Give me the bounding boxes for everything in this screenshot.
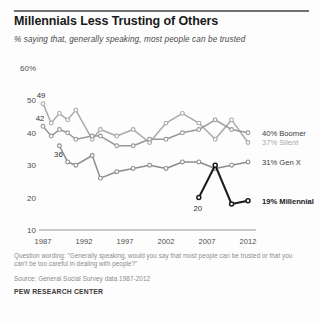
series-millennial [197, 163, 250, 206]
page-title: Millennials Less Trusting of Others [14, 14, 314, 29]
series-marker [74, 137, 78, 141]
series-marker [90, 134, 94, 138]
series-marker [246, 160, 250, 164]
data-point-label: 36 [54, 150, 63, 159]
series-marker [74, 108, 78, 112]
series-marker [164, 121, 168, 125]
series-marker [246, 199, 250, 203]
series-marker [197, 121, 201, 125]
series-marker [230, 118, 234, 122]
series-marker [197, 128, 201, 132]
series-marker [66, 131, 70, 135]
y-axis-tick-label: 20 [27, 194, 36, 203]
series-marker [66, 160, 70, 164]
data-point-label: 49 [37, 91, 46, 100]
series-marker [58, 111, 62, 115]
question-wording-note: Question wording: "Generally speaking, w… [14, 252, 304, 268]
y-axis-tick-label: 60% [20, 64, 36, 73]
series-line [43, 120, 248, 146]
series-line [199, 165, 248, 204]
data-point-label: 42 [36, 114, 45, 123]
series-marker [99, 134, 103, 138]
series-marker [131, 144, 135, 148]
series-marker [164, 137, 168, 141]
x-axis-tick-label: 2007 [199, 237, 216, 246]
series-marker [230, 163, 234, 167]
series-marker [230, 202, 234, 206]
series-marker [99, 176, 103, 180]
y-axis-ticks: 60%5040302010 [20, 64, 37, 235]
chart-page: Millennials Less Trusting of Others % sa… [0, 0, 321, 323]
page-subtitle: % saying that, generally speaking, most … [14, 34, 314, 45]
series-marker [213, 118, 217, 122]
x-axis-tick-label: 1997 [117, 237, 134, 246]
series-marker [230, 128, 234, 132]
series-marker [66, 118, 70, 122]
series-marker [181, 111, 185, 115]
series-marker [181, 131, 185, 135]
series-end-label: 37% Silent [262, 138, 299, 147]
series-marker [49, 134, 53, 138]
series-boomer [41, 118, 250, 148]
line-chart: 60%5040302010 198719921997200220072012 4… [0, 52, 321, 250]
y-axis-tick-label: 10 [27, 226, 36, 235]
series-marker [49, 121, 53, 125]
x-axis-ticks: 198719921997200220072012 [35, 237, 257, 246]
series-marker [115, 134, 119, 138]
series-marker [213, 137, 217, 141]
series-marker [131, 128, 135, 132]
x-axis-tick-label: 1992 [76, 237, 93, 246]
series-end-labels: 37% Silent40% Boomer31% Gen X19% Millenn… [262, 129, 314, 207]
data-point-labels: 49423620 [36, 91, 203, 213]
source-note: Source: General Social Survey data 1987-… [14, 275, 304, 282]
series-lines [41, 102, 250, 206]
brand-label: PEW RESEARCH CENTER [14, 288, 304, 295]
series-marker [99, 128, 103, 132]
series-marker [41, 124, 45, 128]
series-marker [115, 144, 119, 148]
series-marker [74, 163, 78, 167]
y-axis-tick-label: 30 [27, 161, 36, 170]
series-end-label: 19% Millennial [262, 197, 314, 206]
data-point-label: 20 [193, 204, 202, 213]
series-marker [197, 160, 201, 164]
series-marker [148, 137, 152, 141]
series-marker [131, 167, 135, 171]
series-marker [213, 163, 217, 167]
series-marker [246, 131, 250, 135]
series-end-label: 31% Gen X [262, 158, 301, 167]
series-marker [164, 167, 168, 171]
series-marker [58, 144, 62, 148]
y-axis-tick-label: 40 [27, 129, 36, 138]
x-axis-tick-label: 2002 [158, 237, 175, 246]
chart-svg: 60%5040302010 198719921997200220072012 4… [0, 52, 321, 250]
series-silent [41, 102, 250, 145]
x-axis-tick-label: 2012 [240, 237, 257, 246]
header-divider [14, 10, 309, 12]
series-marker [148, 163, 152, 167]
series-end-label: 40% Boomer [262, 129, 306, 138]
series-marker [58, 128, 62, 132]
series-marker [41, 102, 45, 106]
series-marker [181, 160, 185, 164]
x-axis-tick-label: 1987 [35, 237, 52, 246]
y-axis-tick-label: 50 [27, 96, 36, 105]
series-marker [197, 196, 201, 200]
series-marker [90, 154, 94, 158]
series-marker [246, 141, 250, 145]
series-gen-x [58, 144, 250, 180]
series-marker [115, 170, 119, 174]
